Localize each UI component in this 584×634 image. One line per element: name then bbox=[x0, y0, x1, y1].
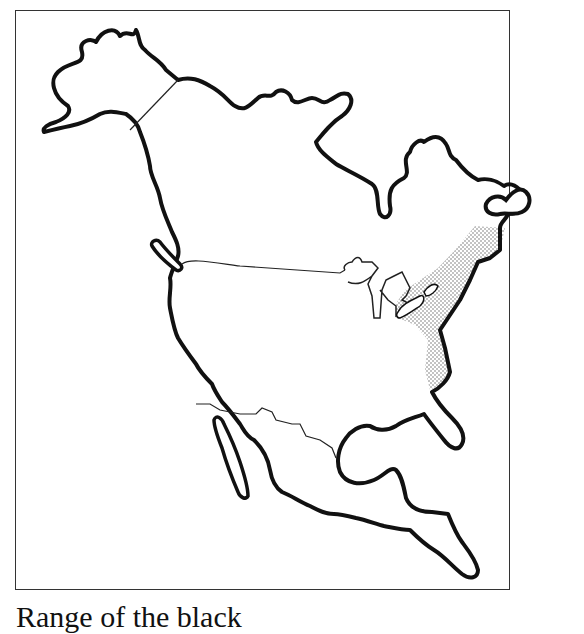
map-caption: Range of the black bbox=[16, 600, 242, 634]
us-canada-border bbox=[182, 261, 345, 273]
alaska-canada-border bbox=[130, 80, 178, 130]
newfoundland-outline bbox=[486, 190, 530, 215]
continent-outline bbox=[44, 30, 529, 577]
